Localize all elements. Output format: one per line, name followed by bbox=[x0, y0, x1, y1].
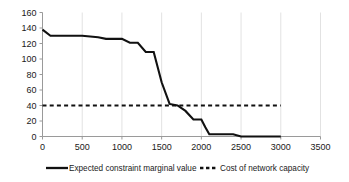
chart-legend: Expected constraint marginal valueCost o… bbox=[46, 164, 310, 173]
y-tick-label-120: 120 bbox=[21, 39, 36, 49]
x-tick-label-3500: 3500 bbox=[310, 142, 330, 152]
gridlines bbox=[43, 13, 321, 137]
y-tick-label-0: 0 bbox=[31, 132, 36, 142]
y-tick-label-140: 140 bbox=[21, 23, 36, 33]
legend-label-expected-constraint-marginal-value: Expected constraint marginal value bbox=[69, 164, 197, 173]
y-tick-label-80: 80 bbox=[26, 70, 36, 80]
x-tick-label-0: 0 bbox=[40, 142, 45, 152]
x-tick-label-3000: 3000 bbox=[271, 142, 291, 152]
y-tick-label-100: 100 bbox=[21, 54, 36, 64]
y-tick-label-60: 60 bbox=[26, 85, 36, 95]
x-tick-label-2500: 2500 bbox=[231, 142, 251, 152]
line-chart: 020406080100120140160 050010001500200025… bbox=[0, 0, 349, 182]
y-tick-label-160: 160 bbox=[21, 8, 36, 18]
x-axis-tick-labels: 0500100015002000250030003500 bbox=[40, 142, 331, 152]
x-tick-label-1000: 1000 bbox=[112, 142, 132, 152]
y-tick-label-20: 20 bbox=[26, 116, 36, 126]
legend-label-cost-of-network-capacity: Cost of network capacity bbox=[220, 164, 310, 173]
x-tick-label-2000: 2000 bbox=[191, 142, 211, 152]
y-tick-label-40: 40 bbox=[26, 101, 36, 111]
x-tick-label-500: 500 bbox=[75, 142, 90, 152]
chart-figure: 020406080100120140160 050010001500200025… bbox=[0, 0, 349, 182]
x-tick-label-1500: 1500 bbox=[152, 142, 172, 152]
y-axis-tick-labels: 020406080100120140160 bbox=[21, 8, 36, 142]
